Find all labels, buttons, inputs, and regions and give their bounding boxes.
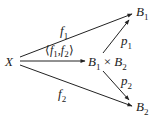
node-x-text: X xyxy=(5,54,13,69)
node-x: X xyxy=(5,55,13,68)
label-p1: p1 xyxy=(121,34,132,51)
label-pair: ⟨f1,f2⟩ xyxy=(45,44,74,59)
b1-sub: 1 xyxy=(144,12,149,22)
product-op: × xyxy=(104,54,111,69)
p2-sub: 2 xyxy=(128,81,133,91)
p1-sub: 1 xyxy=(128,41,133,51)
b1-base: B xyxy=(136,4,144,19)
pair-close: ⟩ xyxy=(69,43,74,57)
node-product: B1 × B2 xyxy=(88,55,127,72)
node-b2: B2 xyxy=(136,100,148,117)
f2-sub: 2 xyxy=(62,94,67,104)
product-left-sub: 1 xyxy=(96,62,101,72)
node-b1: B1 xyxy=(136,5,148,22)
label-f2: f2 xyxy=(58,87,66,104)
b2-sub: 2 xyxy=(144,107,149,117)
product-right-sub: 2 xyxy=(122,62,127,72)
arrows-layer xyxy=(0,0,155,119)
label-f1: f1 xyxy=(60,24,68,41)
b2-base: B xyxy=(136,99,144,114)
product-left: B xyxy=(88,54,96,69)
label-p2: p2 xyxy=(121,74,132,91)
f1-sub: 1 xyxy=(64,31,69,41)
arrow-f1 xyxy=(20,14,132,57)
